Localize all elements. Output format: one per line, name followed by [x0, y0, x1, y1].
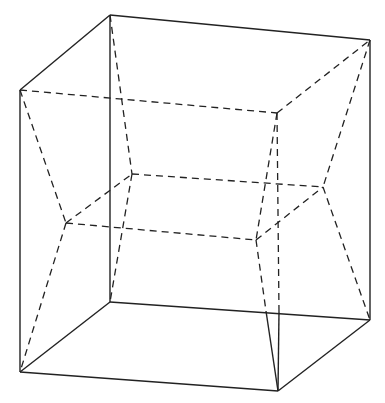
edge-C-L: [20, 90, 66, 223]
edge-A2-B2: [110, 302, 370, 320]
edge-D-D2: [277, 113, 279, 312]
edge-A-F: [110, 15, 132, 174]
edge-C-D: [20, 90, 277, 113]
edge-D2-G2: [278, 312, 279, 391]
edge-R-R2: [256, 240, 266, 311]
edge-E-B2: [323, 187, 370, 320]
edge-F-E: [132, 174, 323, 187]
edge-R2-G2: [266, 311, 278, 391]
edge-D-R: [256, 113, 277, 240]
edge-A-B: [110, 15, 370, 40]
edge-C2-A2: [20, 302, 110, 372]
edge-B-E: [323, 40, 370, 187]
edge-C2-G2: [20, 372, 278, 391]
edge-L-F: [66, 174, 132, 223]
edge-R-E: [256, 187, 323, 240]
edge-F-A2: [110, 174, 132, 302]
edge-A-C: [20, 15, 110, 90]
edge-G2-B2: [278, 320, 370, 391]
solid-edges: [20, 15, 370, 391]
edge-L-R: [66, 223, 256, 240]
dashed-edges: [20, 15, 370, 372]
hypercube-diagram: [0, 0, 385, 403]
edge-L-C2: [20, 223, 66, 372]
edge-D-B: [277, 40, 370, 113]
